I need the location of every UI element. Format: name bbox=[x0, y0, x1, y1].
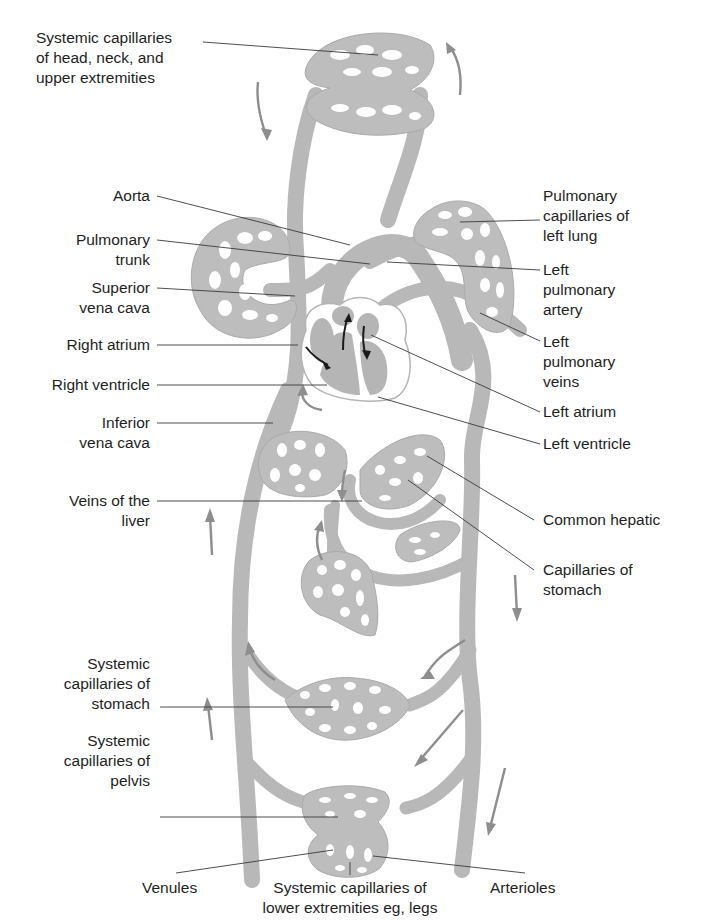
label-capillaries-of-stomach: Capillaries of stomach bbox=[543, 560, 633, 600]
capillary-bed-liver bbox=[258, 431, 347, 497]
capillary-bed-right-lung bbox=[191, 217, 296, 338]
leader-lines bbox=[157, 42, 540, 875]
label-pulmonary-trunk: Pulmonary trunk bbox=[76, 230, 150, 270]
label-inferior-vena-cava: Inferior vena cava bbox=[79, 413, 150, 453]
label-common-hepatic: Common hepatic bbox=[543, 510, 660, 530]
heart bbox=[301, 298, 410, 402]
label-systemic-capillaries-pelvis: Systemic capillaries of pelvis bbox=[64, 731, 150, 791]
left-atrium bbox=[357, 313, 379, 339]
label-venules: Venules bbox=[142, 878, 197, 898]
label-systemic-capillaries-stomach: Systemic capillaries of stomach bbox=[64, 654, 150, 714]
label-veins-of-liver: Veins of the liver bbox=[69, 491, 150, 531]
label-left-ventricle: Left ventricle bbox=[543, 434, 631, 454]
label-right-atrium: Right atrium bbox=[66, 335, 150, 355]
label-systemic-capillaries-lower: Systemic capillaries of lower extremitie… bbox=[245, 878, 455, 918]
capillary-bed-head bbox=[305, 33, 434, 135]
label-systemic-capillaries-head: Systemic capillaries of head, neck, and … bbox=[36, 28, 172, 88]
label-left-pulmonary-veins: Left pulmonary veins bbox=[543, 332, 615, 392]
capillary-bed-stomach-upper bbox=[360, 435, 445, 509]
capillary-bed-intestine bbox=[301, 552, 378, 636]
label-superior-vena-cava: Superior vena cava bbox=[79, 278, 150, 318]
label-pulmonary-capillaries-left-lung: Pulmonary capillaries of left lung bbox=[543, 186, 629, 246]
label-left-atrium: Left atrium bbox=[543, 402, 616, 422]
label-arterioles: Arterioles bbox=[490, 878, 555, 898]
capillary-bed-stomach-systemic bbox=[285, 677, 410, 740]
label-right-ventricle: Right ventricle bbox=[52, 375, 150, 395]
label-left-pulmonary-artery: Left pulmonary artery bbox=[543, 260, 615, 320]
label-aorta: Aorta bbox=[113, 186, 150, 206]
capillary-bed-pelvis-lower bbox=[302, 786, 389, 877]
pulmonary-valve bbox=[332, 306, 354, 326]
